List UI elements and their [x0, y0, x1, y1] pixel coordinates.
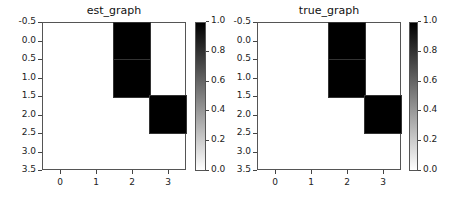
- chart-title: true_graph: [257, 4, 401, 17]
- y-tick-label: 3.0: [223, 146, 251, 156]
- colorbar-tick-label: 1.0: [423, 15, 437, 25]
- colorbar-tick-mark: [418, 81, 421, 82]
- y-tick-label: 1.0: [223, 72, 251, 82]
- x-tick-mark: [275, 170, 276, 174]
- y-tick-label: -0.5: [223, 16, 251, 26]
- colorbar-tick-label: 0.2: [423, 134, 437, 144]
- y-tick-label: 0.5: [223, 53, 251, 63]
- heatmap-cell: [329, 23, 365, 60]
- colorbar-tick-mark: [418, 170, 421, 171]
- y-tick-label: 1.5: [223, 90, 251, 100]
- colorbar-tick-label: 0.8: [423, 45, 437, 55]
- y-tick-label: 2.5: [223, 127, 251, 137]
- y-tick-label: 2.0: [223, 109, 251, 119]
- colorbar-tick-mark: [418, 51, 421, 52]
- y-tick-mark: [253, 78, 257, 79]
- y-tick-mark: [253, 152, 257, 153]
- x-tick-mark: [347, 170, 348, 174]
- y-tick-mark: [253, 133, 257, 134]
- heatmap-cell: [329, 60, 365, 97]
- colorbar-tick-label: 0.6: [423, 75, 437, 85]
- y-tick-label: 0.0: [223, 35, 251, 45]
- colorbar: [409, 22, 418, 171]
- colorbar-tick-label: 0.0: [423, 164, 437, 174]
- colorbar-tick-mark: [418, 110, 421, 111]
- y-tick-mark: [253, 96, 257, 97]
- heatmap-axes: [257, 22, 401, 170]
- x-tick-label: 0: [265, 177, 285, 187]
- colorbar-tick-mark: [418, 21, 421, 22]
- colorbar-tick-mark: [418, 140, 421, 141]
- heatmap-cell: [365, 96, 401, 133]
- heatmap-panel-true-graph: true_graph-0.50.00.51.01.52.02.53.03.501…: [0, 0, 453, 198]
- x-tick-label: 2: [337, 177, 357, 187]
- x-tick-label: 3: [373, 177, 393, 187]
- x-tick-mark: [383, 170, 384, 174]
- y-tick-mark: [253, 59, 257, 60]
- y-tick-mark: [253, 115, 257, 116]
- y-tick-label: 3.5: [223, 164, 251, 174]
- x-tick-label: 1: [301, 177, 321, 187]
- colorbar-tick-label: 0.4: [423, 104, 437, 114]
- y-tick-mark: [253, 41, 257, 42]
- y-tick-mark: [253, 170, 257, 171]
- x-tick-mark: [311, 170, 312, 174]
- y-tick-mark: [253, 22, 257, 23]
